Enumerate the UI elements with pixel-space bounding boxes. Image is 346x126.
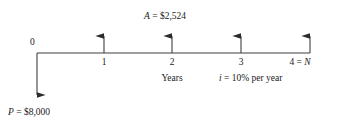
time-axis-label: Years [161, 74, 182, 84]
interest-rate-label: i = 10% per year [219, 74, 282, 84]
tick-label-1: 1 [102, 58, 107, 68]
tick-label-2: 2 [170, 58, 175, 68]
cash-flow-diagram: A = $2,524 0 1 2 3 4 = N Years i = 10% p… [0, 0, 346, 126]
annuity-label: A = $2,524 [144, 12, 186, 22]
principal-label: P = $8,000 [8, 108, 50, 118]
horizon-label: 4 = N [289, 58, 310, 68]
tick-label-3: 3 [239, 58, 244, 68]
tick-label-0: 0 [30, 38, 35, 48]
